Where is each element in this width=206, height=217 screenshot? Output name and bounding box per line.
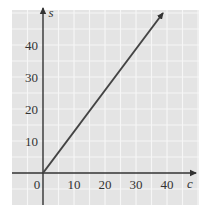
line-chart: 010203040 10203040 c s (0, 0, 206, 217)
y-tick-label: 10 (25, 134, 38, 149)
y-axis-label: s (48, 5, 53, 20)
y-tick-label: 40 (25, 38, 38, 53)
x-tick-label: 10 (68, 177, 81, 192)
x-tick-label: 0 (34, 177, 41, 192)
x-tick-label: 20 (99, 177, 112, 192)
y-tick-label: 20 (25, 102, 38, 117)
y-tick-label: 30 (25, 70, 38, 85)
x-tick-label: 30 (130, 177, 143, 192)
x-axis-label: c (187, 176, 193, 191)
x-tick-label: 40 (161, 177, 174, 192)
